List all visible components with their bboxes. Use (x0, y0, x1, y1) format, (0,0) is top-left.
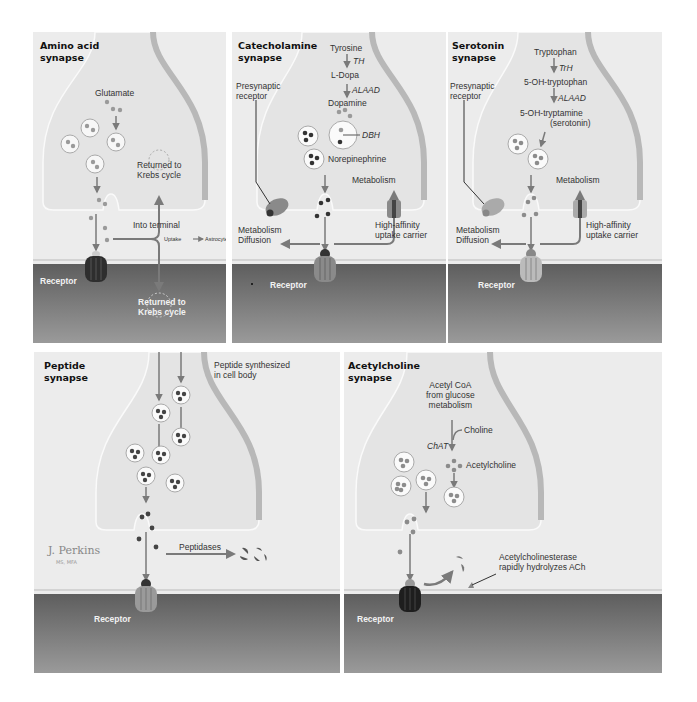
label-receptor: Receptor (270, 280, 307, 290)
label-receptor: Receptor (40, 276, 77, 286)
label-line: receptor (236, 91, 280, 101)
label-line: Krebs cycle (138, 307, 186, 317)
label-th: TH (353, 56, 364, 66)
label-line: Acetylcholinesterase (499, 552, 585, 562)
label-trh: TrH (559, 63, 573, 73)
label-dbh: DBH (362, 130, 380, 140)
label-dopamine: Dopamine (328, 98, 367, 108)
title-line: Peptide (44, 360, 88, 372)
panel-acetylcholine-synapse: Acetylcholinesynapse Acetyl CoAfrom gluc… (344, 352, 662, 673)
title-line: Catecholamine (238, 40, 317, 52)
label-line: Krebs cycle (137, 170, 181, 180)
label-line: Metabolism (238, 225, 281, 235)
label-line: High-affinity (586, 220, 638, 230)
label-metabolism-top: Metabolism (352, 175, 395, 185)
label-high-affinity-uptake: High-affinityuptake carrier (586, 220, 638, 240)
receptor-icon (520, 249, 542, 282)
label-astrocyte: Astrocyte (205, 236, 226, 243)
label-metabolism-diffusion: MetabolismDiffusion (456, 225, 499, 245)
label-uptake: Uptake (164, 236, 181, 243)
label-metabolism-diffusion: MetabolismDiffusion (238, 225, 281, 245)
label-line: Returned to (138, 297, 186, 307)
panel-title: Catecholaminesynapse (238, 40, 317, 64)
label-glutamate: Glutamate (95, 88, 134, 98)
label-into-terminal: Into terminal (133, 220, 180, 230)
label-line: Returned to (137, 160, 181, 170)
panel-title: Acetylcholinesynapse (348, 360, 420, 384)
label-line: Diffusion (238, 235, 281, 245)
peptide-diagram (34, 352, 340, 673)
label-choline: Choline (464, 425, 493, 435)
label-line: Peptide synthesized (214, 360, 290, 370)
panel-title: Serotoninsynapse (452, 40, 504, 64)
uptake-carrier-icon (387, 200, 401, 218)
label-receptor: Receptor (357, 614, 394, 624)
label-line: receptor (450, 91, 494, 101)
panel-title: Amino acidsynapse (40, 40, 99, 64)
label-returned-krebs-top: Returned toKrebs cycle (137, 160, 181, 180)
artist-signature: J. Perkins (48, 545, 100, 557)
title-line: synapse (452, 52, 504, 64)
label-line: metabolism (426, 400, 475, 410)
label-tryptophan: Tryptophan (534, 47, 577, 57)
uptake-carrier-icon (573, 200, 587, 218)
label-line: from glucose (426, 390, 475, 400)
label-serotonin: 5-OH-tryptamine(serotonin) (520, 108, 591, 128)
panel-peptide-synapse: Peptidesynapse Peptide synthesizedin cel… (34, 352, 340, 673)
title-line: synapse (40, 52, 99, 64)
hydrolyzed-ach-icon (456, 556, 464, 572)
label-receptor: Receptor (94, 614, 131, 624)
label-line: Diffusion (456, 235, 499, 245)
label-high-affinity-uptake: High-affinityuptake carrier (375, 220, 427, 240)
label-acetylcholinesterase: Acetylcholinesteraserapidly hydrolyzes A… (499, 552, 585, 572)
label-line: 5-OH-tryptamine (520, 108, 591, 118)
panel-amino-acid-synapse: Amino acidsynapse Glutamate Returned toK… (33, 32, 226, 343)
label-alaad: ALAAD (352, 85, 380, 95)
title-line: Amino acid (40, 40, 99, 52)
label-peptidases: Peptidases (179, 542, 221, 552)
label-chat: ChAT (427, 441, 448, 451)
label-metabolism-top: Metabolism (556, 175, 599, 185)
label-alaad: ALAAD (558, 93, 586, 103)
label-5-oh-tryptophan: 5-OH-tryptophan (524, 77, 587, 87)
label-peptide-synthesized: Peptide synthesizedin cell body (214, 360, 290, 380)
label-presynaptic-receptor: Presynapticreceptor (236, 81, 280, 101)
label-returned-krebs-bottom: Returned toKrebs cycle (138, 297, 186, 317)
panel-catecholamine-synapse: Catecholaminesynapse Tyrosine TH L-Dopa … (232, 32, 446, 343)
artist-credentials: MS, MFA (56, 559, 77, 565)
label-line: Metabolism (456, 225, 499, 235)
title-line: synapse (44, 372, 88, 384)
panel-title: Peptidesynapse (44, 360, 88, 384)
label-line: High-affinity (375, 220, 427, 230)
label-l-dopa: L-Dopa (331, 70, 359, 80)
label-norepinephrine: Norepinephrine (328, 154, 386, 164)
title-line: Acetylcholine (348, 360, 420, 372)
receptor-icon (135, 579, 157, 612)
label-line: (serotonin) (520, 118, 591, 128)
label-acetyl-coa: Acetyl CoAfrom glucosemetabolism (426, 380, 475, 410)
label-line: in cell body (214, 370, 290, 380)
label-line: Presynaptic (236, 81, 280, 91)
label-line: Acetyl CoA (426, 380, 475, 390)
amino-acid-diagram (33, 32, 226, 343)
receptor-icon (314, 249, 336, 282)
title-line: Serotonin (452, 40, 504, 52)
label-line: uptake carrier (586, 230, 638, 240)
label-acetylcholine: Acetylcholine (466, 460, 516, 470)
peptide-fragments-icon (240, 548, 267, 561)
label-receptor: Receptor (478, 280, 515, 290)
receptor-icon (399, 579, 421, 612)
acetylcholine-diagram (344, 352, 662, 673)
title-line: synapse (238, 52, 317, 64)
label-tyrosine: Tyrosine (330, 43, 362, 53)
panel-serotonin-synapse: Serotoninsynapse Tryptophan TrH 5-OH-try… (448, 32, 662, 343)
label-line: uptake carrier (375, 230, 427, 240)
title-line: synapse (348, 372, 420, 384)
label-line: rapidly hydrolyzes ACh (499, 562, 585, 572)
label-line: Presynaptic (450, 81, 494, 91)
label-presynaptic-receptor: Presynapticreceptor (450, 81, 494, 101)
receptor-icon (85, 251, 107, 282)
